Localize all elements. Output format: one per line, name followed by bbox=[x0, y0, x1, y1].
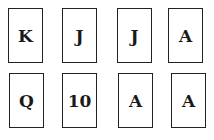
card-2[interactable]: J bbox=[62, 8, 97, 63]
card-rank: K bbox=[18, 26, 33, 46]
card-rank: A bbox=[182, 91, 195, 111]
card-8[interactable]: A bbox=[171, 73, 206, 128]
card-rank: J bbox=[75, 26, 83, 46]
card-rank: J bbox=[130, 26, 138, 46]
card-7[interactable]: A bbox=[118, 73, 153, 128]
card-rank: Q bbox=[19, 91, 34, 111]
card-rank: 10 bbox=[68, 91, 92, 111]
card-rank: A bbox=[129, 91, 142, 111]
card-1[interactable]: K bbox=[8, 8, 43, 63]
card-5[interactable]: Q bbox=[9, 73, 44, 128]
card-3[interactable]: J bbox=[117, 8, 152, 63]
card-rank: A bbox=[179, 26, 192, 46]
card-6[interactable]: 10 bbox=[62, 73, 97, 128]
card-4[interactable]: A bbox=[168, 8, 203, 63]
